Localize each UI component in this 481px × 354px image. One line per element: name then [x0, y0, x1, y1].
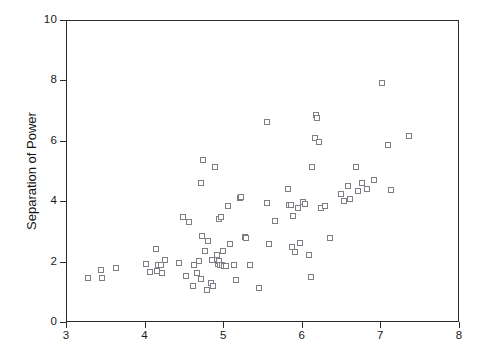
x-axis-tick [380, 322, 381, 328]
data-point [190, 283, 196, 289]
x-axis-tick [459, 322, 460, 328]
x-axis-tick [302, 322, 303, 328]
x-axis-tick-label: 6 [287, 330, 317, 342]
data-point [316, 139, 322, 145]
data-point [341, 198, 347, 204]
data-point [322, 203, 328, 209]
scatter-chart: Separation of Power 0246810345678 [0, 0, 481, 354]
data-point [302, 201, 308, 207]
data-point [218, 214, 224, 220]
data-point [200, 157, 206, 163]
data-point [256, 285, 262, 291]
data-points-layer [67, 21, 458, 321]
x-axis-tick-label: 4 [130, 330, 160, 342]
data-point [85, 275, 91, 281]
data-point [220, 248, 226, 254]
data-point [183, 273, 189, 279]
data-point [247, 262, 253, 268]
y-axis-tick-label: 6 [17, 135, 57, 147]
data-point [371, 177, 377, 183]
data-point [290, 213, 296, 219]
x-axis-tick-label: 8 [444, 330, 474, 342]
y-axis-tick [60, 80, 66, 81]
data-point [347, 196, 353, 202]
data-point [306, 252, 312, 258]
data-point [198, 276, 204, 282]
data-point [233, 277, 239, 283]
data-point [225, 203, 231, 209]
data-point [327, 235, 333, 241]
y-axis-tick [60, 141, 66, 142]
data-point [210, 283, 216, 289]
x-axis-tick-label: 3 [51, 330, 81, 342]
data-point [227, 241, 233, 247]
data-point [379, 80, 385, 86]
data-point [204, 287, 210, 293]
y-axis-tick-label: 4 [17, 195, 57, 207]
data-point [231, 262, 237, 268]
data-point [196, 258, 202, 264]
data-point [162, 257, 168, 263]
data-point [205, 238, 211, 244]
y-axis-tick [60, 262, 66, 263]
y-axis-tick-label: 2 [17, 256, 57, 268]
data-point [309, 164, 315, 170]
data-point [198, 180, 204, 186]
data-point [314, 115, 320, 121]
data-point [388, 187, 394, 193]
x-axis-tick-label: 5 [208, 330, 238, 342]
data-point [113, 265, 119, 271]
data-point [243, 235, 249, 241]
y-axis-tick [60, 20, 66, 21]
data-point [98, 267, 104, 273]
data-point [212, 164, 218, 170]
data-point [199, 233, 205, 239]
data-point [295, 205, 301, 211]
data-point [308, 274, 314, 280]
data-point [223, 263, 229, 269]
data-point [264, 200, 270, 206]
data-point [238, 194, 244, 200]
y-axis-tick-label: 0 [17, 316, 57, 328]
data-point [355, 188, 361, 194]
y-axis-tick-label: 8 [17, 74, 57, 86]
data-point [345, 183, 351, 189]
data-point [147, 269, 153, 275]
data-point [406, 133, 412, 139]
data-point [143, 261, 149, 267]
data-point [285, 186, 291, 192]
data-point [338, 191, 344, 197]
data-point [99, 275, 105, 281]
y-axis-title: Separation of Power [22, 20, 42, 322]
data-point [264, 119, 270, 125]
data-point [292, 249, 298, 255]
data-point [202, 248, 208, 254]
data-point [385, 142, 391, 148]
data-point [159, 270, 165, 276]
data-point [266, 241, 272, 247]
x-axis-tick-label: 7 [365, 330, 395, 342]
y-axis-tick-label: 10 [17, 14, 57, 26]
x-axis-tick [145, 322, 146, 328]
data-point [364, 186, 370, 192]
data-point [186, 219, 192, 225]
data-point [176, 260, 182, 266]
data-point [272, 218, 278, 224]
data-point [353, 164, 359, 170]
y-axis-tick [60, 201, 66, 202]
plot-area [66, 20, 459, 322]
data-point [158, 262, 164, 268]
data-point [153, 246, 159, 252]
data-point [288, 202, 294, 208]
x-axis-tick [223, 322, 224, 328]
x-axis-tick [66, 322, 67, 328]
data-point [297, 240, 303, 246]
